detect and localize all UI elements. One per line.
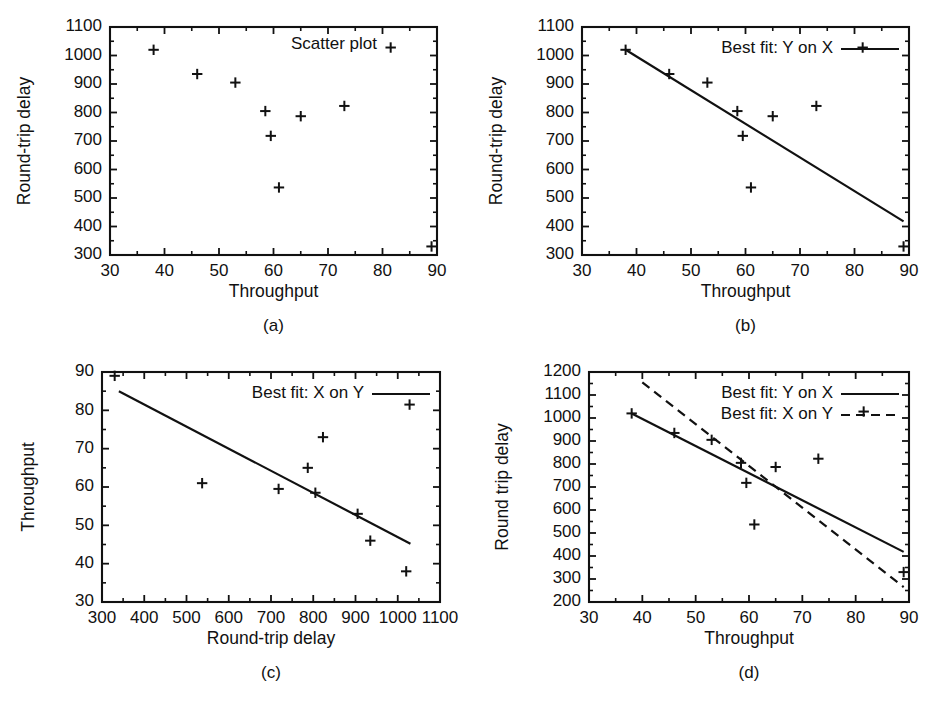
- x-tick-label: 50: [686, 608, 705, 627]
- data-point-marker: [266, 131, 276, 141]
- panel-caption: (d): [739, 663, 760, 682]
- x-tick-label: 40: [627, 261, 646, 280]
- x-tick-label: 80: [373, 261, 392, 280]
- data-point-marker: [732, 106, 742, 116]
- data-point-marker: [365, 535, 375, 545]
- y-tick-label: 1100: [65, 16, 102, 35]
- x-tick-label: 300: [88, 608, 116, 627]
- x-tick-label: 70: [791, 261, 810, 280]
- x-tick-label: 50: [210, 261, 229, 280]
- x-tick-label: 80: [846, 608, 865, 627]
- data-point-marker: [426, 241, 436, 251]
- y-tick-label: 700: [553, 476, 581, 495]
- data-point-marker: [898, 567, 908, 577]
- y-tick-label: 700: [74, 130, 102, 149]
- y-tick-label: 1000: [536, 45, 574, 64]
- panel-d-svg: 2003004005006007008009001000110012003040…: [472, 354, 943, 708]
- data-point-marker: [741, 478, 751, 488]
- data-point-marker: [274, 182, 284, 192]
- data-point-marker: [706, 435, 716, 445]
- data-point-marker: [746, 182, 756, 192]
- y-tick-label: 1000: [543, 407, 581, 426]
- data-point-marker: [260, 106, 270, 116]
- data-point-marker: [404, 399, 414, 409]
- data-point-marker: [768, 111, 778, 121]
- data-point-marker: [857, 42, 867, 52]
- y-tick-label: 500: [553, 522, 581, 541]
- y-tick-label: 200: [553, 591, 581, 610]
- x-tick-label: 90: [900, 261, 919, 280]
- y-axis-title: Throughput: [18, 442, 38, 532]
- plot-title-label: Scatter plot: [291, 34, 377, 53]
- x-tick-label: 900: [341, 608, 369, 627]
- y-tick-label: 90: [75, 361, 94, 380]
- panel-d: 2003004005006007008009001000110012003040…: [472, 354, 943, 708]
- x-axis-title: Throughput: [701, 281, 791, 301]
- plot-frame: [110, 27, 437, 255]
- data-point-marker: [626, 408, 636, 418]
- x-tick-label: 30: [101, 261, 120, 280]
- x-tick-label: 80: [845, 261, 864, 280]
- y-tick-label: 1100: [537, 16, 574, 35]
- data-point-marker: [738, 131, 748, 141]
- x-axis-title: Throughput: [704, 628, 794, 648]
- data-point-marker: [749, 519, 759, 529]
- x-tick-label: 40: [155, 261, 174, 280]
- x-tick-label: 60: [264, 261, 283, 280]
- panel-c-svg: 3040506070809030040050060070080090010001…: [0, 354, 471, 708]
- data-point-marker: [811, 101, 821, 111]
- x-tick-label: 600: [215, 608, 243, 627]
- x-tick-label: 1000: [379, 608, 417, 627]
- data-point-marker: [303, 463, 313, 473]
- y-tick-label: 800: [546, 102, 574, 121]
- y-tick-label: 1000: [64, 45, 102, 64]
- y-tick-label: 400: [74, 216, 102, 235]
- x-tick-label: 400: [130, 608, 158, 627]
- x-tick-label: 700: [257, 608, 285, 627]
- panel-b: 3004005006007008009001000110030405060708…: [472, 0, 943, 354]
- x-tick-label: 60: [736, 261, 755, 280]
- y-tick-label: 300: [74, 244, 102, 263]
- data-point-marker: [192, 69, 202, 79]
- data-point-marker: [898, 241, 908, 251]
- data-point-marker: [702, 77, 712, 87]
- y-tick-label: 600: [74, 159, 102, 178]
- y-tick-label: 50: [75, 515, 94, 534]
- y-tick-label: 300: [546, 244, 574, 263]
- x-tick-label: 70: [793, 608, 812, 627]
- panel-b-svg: 3004005006007008009001000110030405060708…: [472, 0, 943, 354]
- legend-label: Best fit: X on Y: [721, 404, 833, 423]
- fit-line-y-on-x: [119, 391, 411, 544]
- y-axis-title: Round trip delay: [492, 423, 512, 551]
- x-tick-label: 90: [428, 261, 447, 280]
- x-tick-label: 800: [299, 608, 327, 627]
- x-tick-label: 90: [900, 608, 919, 627]
- plot-frame: [102, 372, 440, 602]
- y-tick-label: 1100: [544, 384, 581, 403]
- y-tick-label: 60: [75, 476, 94, 495]
- panel-caption: (c): [261, 663, 281, 682]
- panel-a-svg: 3004005006007008009001000110030405060708…: [0, 0, 471, 354]
- y-tick-label: 300: [553, 568, 581, 587]
- panel-caption: (a): [263, 316, 284, 335]
- y-tick-label: 80: [75, 400, 94, 419]
- x-tick-label: 30: [573, 261, 592, 280]
- data-point-marker: [197, 478, 207, 488]
- data-point-marker: [339, 101, 349, 111]
- panel-c: 3040506070809030040050060070080090010001…: [0, 354, 471, 708]
- legend-label: Best fit: Y on X: [721, 383, 833, 402]
- data-point-marker: [230, 77, 240, 87]
- y-tick-label: 400: [546, 216, 574, 235]
- y-tick-label: 600: [553, 499, 581, 518]
- data-point-marker: [620, 45, 630, 55]
- y-tick-label: 500: [546, 187, 574, 206]
- data-point-marker: [385, 42, 395, 52]
- data-point-marker: [318, 432, 328, 442]
- y-tick-label: 800: [74, 102, 102, 121]
- panel-a: 3004005006007008009001000110030405060708…: [0, 0, 471, 354]
- y-tick-label: 1200: [543, 361, 581, 380]
- data-point-marker: [296, 111, 306, 121]
- x-tick-label: 1100: [422, 608, 459, 627]
- data-point-marker: [273, 484, 283, 494]
- y-axis-title: Round-trip delay: [486, 77, 506, 206]
